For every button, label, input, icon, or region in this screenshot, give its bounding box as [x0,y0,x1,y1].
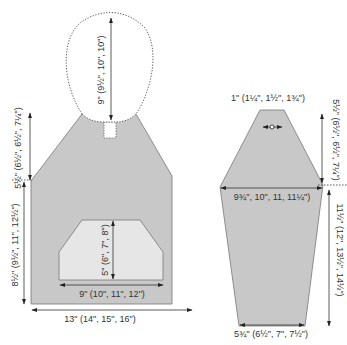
hood-height-label: 9" (9½", 10", 10") [96,36,106,105]
hood-outline [66,13,153,122]
pocket-width-label: 9" (10", 11", 12") [79,289,145,299]
neck-notch [104,122,116,138]
length-to-armhole-label: 8½" (9½", 11", 12½") [10,203,20,286]
body-width-label: 13" (14", 15", 16") [64,314,135,324]
sleeve-top-width-label: 1" (1¼", 1½", 1¾") [231,93,305,103]
sleeve-cuff-width-label: 5¾" (6½", 7", 7½") [234,329,308,339]
schematic-canvas: 9" (9½", 10", 10") 5½" (6½", 6½", 7¼") 8… [0,0,347,345]
pocket-height-label: 5" (6", 7", 8") [100,224,110,275]
sleeve-upper-width-label: 9¾", 10", 11, 11¼") [234,192,310,202]
sleeve-shape [220,110,323,326]
sleeve-cap-height-label: 5½" (6½", 6½", 7¼") [331,99,341,180]
armhole-depth-label: 5½" (6½", 6½", 7¼") [13,107,23,188]
sleeve-top-marker [270,125,274,129]
sleeve-length-label: 11½" (12", 13½", 14½") [335,203,345,296]
